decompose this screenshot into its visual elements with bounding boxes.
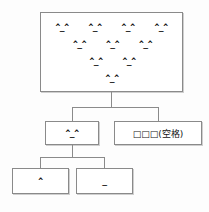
face-row: ^_^ ^_^ ^_^ (43, 36, 182, 53)
face-glyph: ^_^ (113, 53, 146, 70)
face-node-box[interactable]: ^_^ (45, 121, 99, 145)
face-glyph: ^_^ (80, 53, 113, 70)
face-row: ^_^ ^_^ ^_^ ^_^ (41, 19, 182, 36)
connector-to-caret-node (40, 157, 41, 168)
underscore-node-box[interactable]: _ (76, 168, 133, 194)
face-glyph: ^_^ (79, 19, 112, 36)
underscore-node-label: _ (102, 177, 106, 186)
connector-face-stem (72, 145, 73, 157)
face-glyph: ^_^ (129, 36, 162, 53)
connector-level2-bus (72, 107, 158, 108)
face-glyph: ^_^ (46, 19, 79, 36)
face-glyph: ^_^ (96, 70, 129, 87)
caret-node-label: ^ (38, 177, 42, 186)
face-glyph: ^_^ (96, 36, 129, 53)
space-node-box[interactable]: □□□(空格) (114, 121, 202, 145)
face-glyph: ^_^ (145, 19, 178, 36)
face-row: ^_^ (42, 70, 182, 87)
connector-to-space-node (158, 107, 159, 121)
connector-to-underscore-node (104, 157, 105, 168)
face-glyph: ^_^ (63, 36, 96, 53)
connector-to-face-node (72, 107, 73, 121)
root-face-cluster-box[interactable]: ^_^ ^_^ ^_^ ^_^ ^_^ ^_^ ^_^ ^_^ ^_^ ^_^ (40, 12, 183, 92)
face-glyph: ^_^ (112, 19, 145, 36)
face-row: ^_^ ^_^ (43, 53, 182, 70)
connector-level3-bus (40, 157, 104, 158)
diagram-canvas: ^_^ ^_^ ^_^ ^_^ ^_^ ^_^ ^_^ ^_^ ^_^ ^_^ … (0, 0, 209, 212)
caret-node-box[interactable]: ^ (12, 168, 69, 194)
connector-root-stem (111, 92, 112, 107)
face-node-label: ^_^ (66, 129, 79, 138)
space-node-label: □□□(空格) (133, 127, 184, 140)
